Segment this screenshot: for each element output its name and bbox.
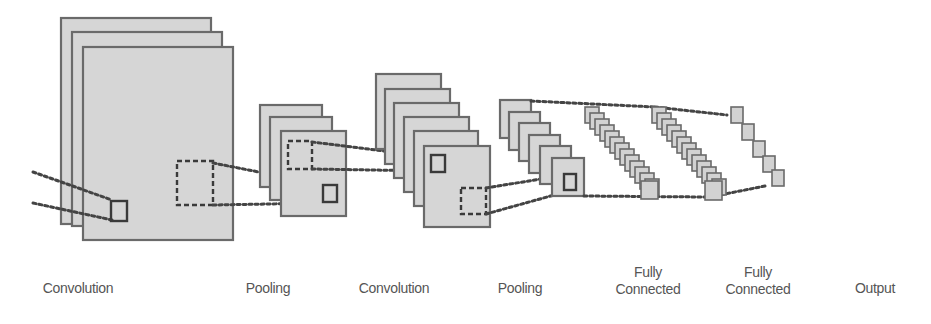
- label-output: Output: [840, 280, 910, 297]
- fc1-nodes: [585, 107, 659, 199]
- conv2-feature-maps: [376, 74, 490, 227]
- label-text: Pooling: [233, 280, 303, 297]
- label-text: Convolution: [344, 280, 444, 297]
- label-conv2: Convolution: [344, 280, 444, 297]
- label-text: Output: [840, 280, 910, 297]
- label-conv1: Convolution: [28, 280, 128, 297]
- label-text-line1: Fully: [713, 264, 803, 281]
- label-pool2: Pooling: [485, 280, 555, 297]
- output-nodes: [731, 107, 784, 186]
- label-fc2: Fully Connected: [713, 264, 803, 298]
- label-text-line2: Connected: [603, 281, 693, 298]
- label-text-line2: Connected: [713, 281, 803, 298]
- fc2-nodes: [652, 107, 726, 200]
- label-text: Convolution: [28, 280, 128, 297]
- label-text-line1: Fully: [603, 264, 693, 281]
- conv1-feature-maps: [61, 18, 233, 240]
- label-fc1: Fully Connected: [603, 264, 693, 298]
- pool1-feature-maps: [260, 105, 346, 216]
- label-pool1: Pooling: [233, 280, 303, 297]
- label-text: Pooling: [485, 280, 555, 297]
- pool2-feature-maps: [500, 100, 584, 196]
